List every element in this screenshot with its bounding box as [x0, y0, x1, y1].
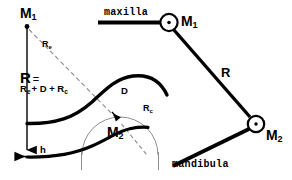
formula-plus-d-plus-r: + D + R [32, 83, 65, 94]
maxilla-label: maxilla [104, 8, 148, 18]
formula-sub-c: c [64, 88, 68, 95]
left-m2-label: M2 [107, 125, 123, 139]
left-m1-label: M1 [20, 6, 36, 20]
r-link-bar [174, 30, 250, 117]
rc-letter: R [143, 103, 150, 113]
right-m2-subscript: 2 [277, 134, 282, 144]
left-m1-letter: M [20, 5, 31, 21]
rc-subscript: c [150, 108, 153, 114]
rc-label: Rc [143, 104, 153, 113]
left-m2-letter: M [107, 124, 118, 140]
formula-r-letter: R [20, 83, 27, 94]
left-detail-group [15, 24, 167, 170]
right-m1-subscript: 1 [192, 20, 197, 30]
right-r-label: R [221, 66, 230, 79]
re-label: Re [42, 40, 52, 49]
left-m2-subscript: 2 [118, 131, 123, 141]
jaw-joint-geometry-figure: M1 Re R= Re+ D + Rc D Rc M2 h maxilla M1… [0, 0, 292, 180]
formula-sub-e: e [27, 88, 31, 95]
mandibula-label: mandibula [172, 160, 229, 170]
m2-joint-center-dot [254, 122, 257, 125]
re-letter: R [42, 39, 49, 49]
mandibula-text: mandibula [172, 159, 229, 170]
right-r-letter: R [221, 65, 230, 80]
d-letter: D [121, 85, 128, 96]
m1-joint-center-dot [167, 21, 171, 25]
right-m2-label: M2 [266, 128, 282, 142]
h-label: h [40, 145, 46, 155]
r-formula: Re+ D + Rc [20, 84, 68, 94]
lower-jaw-curve-tail [131, 127, 148, 128]
right-m1-letter: M [181, 13, 192, 29]
d-label: D [121, 86, 128, 96]
right-m1-label: M1 [181, 14, 197, 28]
right-m2-letter: M [266, 127, 277, 143]
re-subscript: e [49, 44, 52, 50]
h-letter: h [40, 144, 46, 155]
left-m1-subscript: 1 [31, 12, 36, 22]
maxilla-text: maxilla [104, 7, 148, 18]
